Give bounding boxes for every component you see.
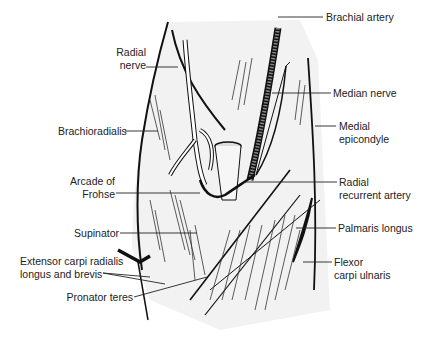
- elbow-illustration: [0, 0, 431, 340]
- label-radial-recurrent-artery: Radial recurrent artery: [339, 176, 411, 201]
- label-palmaris-longus: Palmaris longus: [338, 222, 413, 235]
- label-extensor-carpi-radialis: Extensor carpi radialis longus and brevi…: [20, 255, 123, 280]
- label-median-nerve: Median nerve: [333, 87, 397, 100]
- label-arcade-of-frohse: Arcade of Frohse: [60, 175, 115, 200]
- label-radial-nerve: Radial nerve: [104, 46, 146, 71]
- label-flexor-carpi-ulnaris: Flexor carpi ulnaris: [334, 256, 391, 281]
- label-brachioradialis: Brachioradialis: [58, 125, 124, 138]
- label-pronator-teres: Pronator teres: [56, 291, 133, 304]
- anatomy-diagram: Radial nerve Brachioradialis Arcade of F…: [0, 0, 431, 340]
- label-medial-epicondyle: Medial epicondyle: [339, 120, 389, 145]
- label-supinator: Supinator: [60, 227, 119, 240]
- label-brachial-artery: Brachial artery: [326, 11, 394, 24]
